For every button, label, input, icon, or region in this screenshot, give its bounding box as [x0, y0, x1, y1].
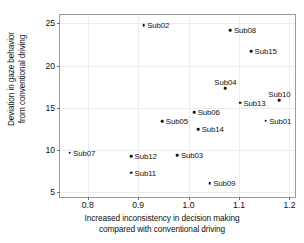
gridline-horizontal — [60, 108, 295, 109]
data-point-marker — [161, 120, 164, 123]
x-tick-label: 1.0 — [183, 200, 195, 210]
y-tick-label: 10 — [45, 145, 55, 155]
data-point-marker — [250, 50, 253, 53]
data-point-label: Sub15 — [255, 47, 277, 56]
gridline-vertical — [289, 15, 290, 197]
data-point-label: Sub10 — [268, 90, 290, 99]
data-point-marker — [68, 151, 71, 154]
y-axis-title: Deviation in gaze behavior from conventi… — [7, 0, 39, 174]
x-tick-label: 0.9 — [132, 200, 144, 210]
x-tick-label: 1.1 — [233, 200, 245, 210]
data-point-label: Sub14 — [202, 124, 224, 133]
x-axis-title-line-2: compared with conventional driving — [30, 224, 294, 235]
gridline-horizontal — [60, 150, 295, 151]
data-point-label: Sub04 — [214, 78, 236, 87]
data-point-label: Sub01 — [269, 116, 291, 125]
data-point-marker — [130, 155, 133, 158]
data-point-marker — [229, 29, 232, 32]
data-point-marker — [278, 99, 281, 102]
x-axis-title-line-1: Increased inconsistency in decision maki… — [30, 213, 294, 224]
scatter-plot-figure: Deviation in gaze behavior from conventi… — [0, 0, 304, 243]
y-tick-mark — [57, 108, 60, 109]
y-tick-mark — [57, 23, 60, 24]
gridline-horizontal — [60, 23, 295, 24]
data-point-label: Sub02 — [147, 21, 169, 30]
x-tick-label: 0.8 — [82, 200, 94, 210]
data-point-marker — [142, 24, 145, 27]
y-tick-label: 15 — [45, 103, 55, 113]
gridline-vertical — [189, 15, 190, 197]
data-point-marker — [208, 182, 211, 185]
x-axis-title: Increased inconsistency in decision maki… — [30, 213, 294, 235]
gridline-vertical — [239, 15, 240, 197]
data-point-marker — [224, 87, 227, 90]
data-point-marker — [197, 128, 200, 131]
data-point-label: Sub12 — [135, 151, 157, 160]
data-point-label: Sub08 — [234, 26, 256, 35]
data-point-marker — [193, 111, 196, 114]
y-tick-mark — [57, 150, 60, 151]
y-tick-mark — [57, 66, 60, 67]
gridline-vertical — [88, 15, 89, 197]
gridline-horizontal — [60, 192, 295, 193]
y-tick-label: 20 — [45, 61, 55, 71]
data-point-label: Sub09 — [213, 178, 235, 187]
data-point-marker — [264, 119, 267, 122]
data-point-label: Sub05 — [166, 117, 188, 126]
y-axis-title-line-2: from conventional driving — [18, 0, 29, 174]
y-tick-label: 5 — [50, 187, 55, 197]
data-point-label: Sub11 — [135, 168, 156, 177]
plot-area: 510152025 0.80.91.01.11.2 Sub01Sub02Sub0… — [59, 14, 296, 198]
data-point-label: Sub07 — [73, 148, 95, 157]
data-point-label: Sub03 — [181, 151, 203, 160]
data-point-label: Sub06 — [198, 108, 220, 117]
data-point-marker — [130, 172, 133, 175]
x-tick-label: 1.2 — [283, 200, 295, 210]
y-axis-title-line-1: Deviation in gaze behavior — [7, 0, 18, 174]
gridline-horizontal — [60, 66, 295, 67]
y-tick-mark — [57, 192, 60, 193]
data-point-label: Sub13 — [244, 98, 266, 107]
data-point-marker — [176, 154, 179, 157]
y-tick-label: 25 — [45, 18, 55, 28]
data-point-marker — [239, 101, 242, 104]
